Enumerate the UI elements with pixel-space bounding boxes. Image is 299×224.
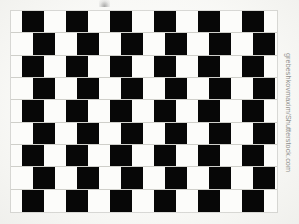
tile-white [55,78,77,99]
tile-row-inner [11,167,277,188]
tile-white [187,78,209,99]
tile-white [11,167,33,188]
tile-white [187,167,209,188]
tile-row-inner [11,145,277,166]
tile-row [11,78,277,100]
tile-row [11,56,277,78]
tile-white [220,145,242,166]
tile-black [242,190,264,212]
tile-white [44,190,66,212]
tile-black [33,123,55,144]
tile-white [231,167,253,188]
tile-black [209,33,231,54]
tile-white [44,145,66,166]
tile-black [77,33,99,54]
tile-white [11,190,22,212]
tile-black [154,100,176,121]
tile-black [242,100,264,121]
tile-row-inner [11,33,277,54]
tile-white [187,33,209,54]
shutterstock-credit: grebeshkovmaxim/Shutterstock.com [278,0,299,224]
tile-white [275,123,277,144]
tile-row [11,100,277,122]
tile-white [88,100,110,121]
tile-black [110,11,132,32]
tile-row [11,145,277,167]
tile-black [77,167,99,188]
tile-black [198,145,220,166]
tile-white [55,167,77,188]
tile-white [11,145,22,166]
tile-white [176,190,198,212]
tile-black [165,78,187,99]
tile-row-inner [11,78,277,99]
tile-white [132,190,154,212]
tile-row [11,167,277,189]
tile-white [132,56,154,77]
tile-white [231,78,253,99]
tile-row-inner [11,56,277,77]
tile-white [264,11,277,32]
tile-white [99,78,121,99]
tile-black [121,167,143,188]
tile-white [220,100,242,121]
tile-white [143,33,165,54]
shutterstock-credit-text: grebeshkovmaxim/Shutterstock.com [285,52,294,171]
tile-white [11,33,33,54]
tile-black [242,11,264,32]
tile-black [242,145,264,166]
tile-white [11,100,22,121]
tile-white [11,11,22,32]
tile-black [154,145,176,166]
illusion-image: grebeshkovmaxim/Shutterstock.com [0,0,299,224]
tile-black [110,190,132,212]
tile-white [231,33,253,54]
tile-black [33,78,55,99]
tile-black [77,78,99,99]
tile-black [253,78,275,99]
tile-white [264,145,277,166]
tile-black [154,190,176,212]
tile-white [88,11,110,32]
tile-white [176,56,198,77]
tile-black [121,123,143,144]
tile-white [275,33,277,54]
tile-white [99,33,121,54]
tile-black [165,33,187,54]
tile-black [154,56,176,77]
tile-black [22,190,44,212]
tile-white [55,123,77,144]
tile-white [220,56,242,77]
tile-white [231,123,253,144]
tile-white [11,123,33,144]
tile-white [220,190,242,212]
tile-row [11,190,277,212]
tile-white [99,123,121,144]
tile-black [209,123,231,144]
tile-white [264,190,277,212]
tile-white [55,33,77,54]
tile-black [154,11,176,32]
tile-white [88,190,110,212]
tile-white [275,78,277,99]
tile-white [143,167,165,188]
tile-black [22,11,44,32]
tile-white [88,56,110,77]
tile-white [132,11,154,32]
tile-black [121,33,143,54]
tile-black [121,78,143,99]
tile-white [132,100,154,121]
tile-white [176,145,198,166]
tile-white [11,78,33,99]
tile-row [11,123,277,145]
tile-black [165,167,187,188]
tile-black [66,56,88,77]
tile-white [220,11,242,32]
tile-black [22,145,44,166]
tile-white [176,100,198,121]
tile-black [253,123,275,144]
tile-white [88,145,110,166]
tile-black [198,190,220,212]
tile-row [11,33,277,55]
tile-black [253,167,275,188]
